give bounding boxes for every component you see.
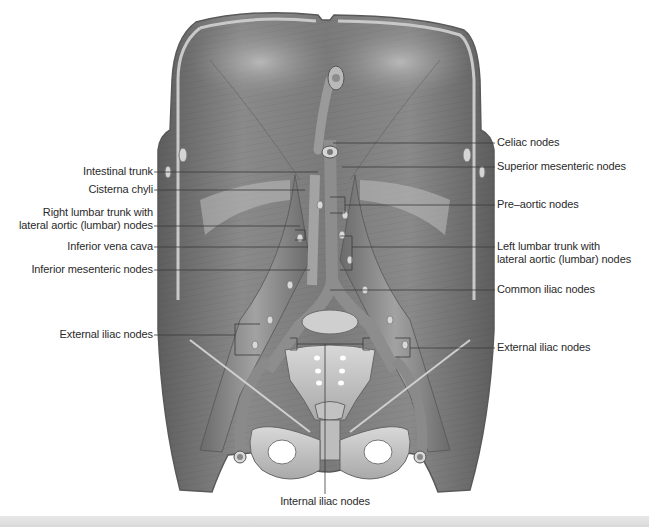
label-left-lumbar-trunk-line2: lateral aortic (lumbar) nodes — [497, 253, 631, 266]
label-left-lumbar-trunk-line1: Left lumbar trunk with — [497, 240, 631, 253]
label-right-lumbar-trunk-line1: Right lumbar trunk with — [19, 206, 153, 219]
label-right-lumbar-trunk-line2: lateral aortic (lumbar) nodes — [19, 219, 153, 232]
label-internal-iliac-nodes: Internal iliac nodes — [255, 495, 395, 508]
label-cisterna-chyli: Cisterna chyli — [88, 183, 153, 196]
label-superior-mesenteric-nodes: Superior mesenteric nodes — [497, 160, 626, 173]
label-external-iliac-nodes-right: External iliac nodes — [497, 341, 590, 354]
label-common-iliac-nodes: Common iliac nodes — [497, 283, 595, 296]
anatomy-diagram: Intestinal trunk Cisterna chyli Right lu… — [0, 0, 649, 527]
footer-bar — [0, 516, 649, 527]
label-right-lumbar-trunk: Right lumbar trunk with lateral aortic (… — [19, 206, 153, 232]
label-pre-aortic-nodes: Pre–aortic nodes — [497, 198, 579, 211]
label-inferior-vena-cava: Inferior vena cava — [67, 240, 153, 253]
label-intestinal-trunk: Intestinal trunk — [83, 165, 153, 178]
label-left-lumbar-trunk: Left lumbar trunk with lateral aortic (l… — [497, 240, 631, 266]
label-external-iliac-nodes-left: External iliac nodes — [60, 328, 153, 341]
label-inferior-mesenteric-nodes: Inferior mesenteric nodes — [31, 263, 153, 276]
label-celiac-nodes: Celiac nodes — [497, 136, 559, 149]
